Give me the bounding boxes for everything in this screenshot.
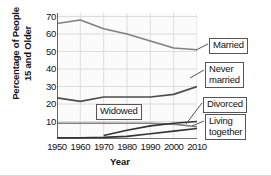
plot-svg bbox=[57, 13, 197, 139]
y-tick-label: 10 bbox=[36, 116, 56, 127]
leader-married bbox=[196, 44, 208, 50]
plot-area bbox=[57, 13, 197, 139]
x-axis-title: Year bbox=[40, 156, 200, 167]
series-label-widowed: Widowed bbox=[96, 104, 142, 120]
series-label-living-together: Living together bbox=[205, 114, 246, 140]
y-axis-title-line1: Percentage of People bbox=[10, 7, 21, 100]
y-tick-label: 50 bbox=[36, 46, 56, 57]
series-label-never-married: Never married bbox=[205, 62, 244, 88]
x-axis-tick-labels: 1950196019701980199020002010 bbox=[0, 141, 271, 155]
y-tick-label: 30 bbox=[36, 81, 56, 92]
x-tick-label: 2010 bbox=[180, 141, 214, 152]
series-label-married: Married bbox=[209, 38, 248, 54]
y-axis-title-wrap: Percentage of People 15 and Older bbox=[0, 0, 40, 150]
y-tick-label: 60 bbox=[36, 28, 56, 39]
series-label-divorced: Divorced bbox=[203, 97, 247, 113]
y-tick-label: 70 bbox=[36, 11, 56, 22]
y-tick-label: 20 bbox=[36, 98, 56, 109]
y-axis-title-line2: 15 and Older bbox=[21, 26, 32, 81]
y-axis-tick-labels: 10203040506070 bbox=[36, 0, 56, 150]
y-axis-title: Percentage of People 15 and Older bbox=[10, 0, 33, 113]
line-chart-figure: Percentage of People 15 and Older 102030… bbox=[0, 0, 271, 176]
y-tick-label: 40 bbox=[36, 63, 56, 74]
